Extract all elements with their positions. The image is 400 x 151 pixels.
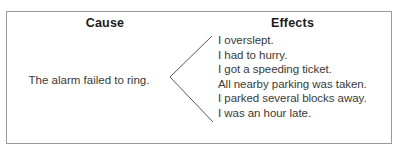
list-item: I had to hurry. [218,48,388,63]
list-item: I got a speeding ticket. [218,62,388,77]
effects-list: I overslept. I had to hurry. I got a spe… [218,33,388,121]
effects-column-heading: Effects [215,16,370,30]
cause-column-heading: Cause [20,16,190,30]
list-item: I overslept. [218,33,388,48]
cause-effect-diagram: Cause Effects The alarm failed to ring. … [0,0,400,151]
chevron-bracket-icon [166,32,218,127]
cause-text: The alarm failed to ring. [14,73,164,87]
list-item: I parked several blocks away. [218,91,388,106]
list-item: I was an hour late. [218,106,388,121]
list-item: All nearby parking was taken. [218,77,388,92]
